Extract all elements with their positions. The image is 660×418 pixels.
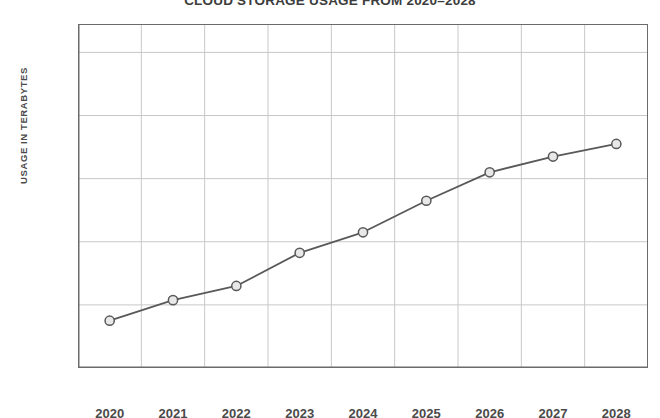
axis-frame (78, 24, 648, 368)
x-tick-label: 2025 (396, 406, 456, 418)
x-gridlines (141, 24, 584, 368)
plot-area: 2004006008001k 2020202120222023202420252… (78, 24, 648, 368)
x-tick-label: 2026 (460, 406, 520, 418)
y-gridlines (78, 52, 648, 304)
chart-title: CLOUD STORAGE USAGE FROM 2020–2028 (0, 0, 660, 8)
x-tick-label: 2027 (523, 406, 583, 418)
y-axis-title: USAGE IN TERABYTES (18, 46, 29, 206)
x-tick-label: 2028 (586, 406, 646, 418)
x-tick-label: 2024 (333, 406, 393, 418)
plot-svg (78, 24, 648, 368)
chart-container: CLOUD STORAGE USAGE FROM 2020–2028 USAGE… (0, 0, 660, 418)
x-tick-label: 2021 (143, 406, 203, 418)
x-tick-label: 2023 (270, 406, 330, 418)
x-tick-label: 2022 (206, 406, 266, 418)
x-tick-label: 2020 (80, 406, 140, 418)
